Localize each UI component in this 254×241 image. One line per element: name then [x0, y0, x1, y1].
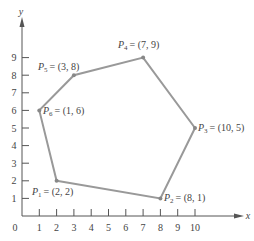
vertex-p1: [55, 179, 59, 183]
y-tick-label: 6: [12, 105, 17, 116]
polygon-diagram: 0 1 2 3 4 5 6 7 8 9 10 1 2 3 4 5 6 7 8 9…: [0, 0, 254, 241]
x-tick-label: 1: [37, 222, 42, 233]
y-axis-label: y: [18, 6, 24, 17]
y-tick-marks: [22, 58, 29, 199]
x-tick-label: 4: [89, 222, 94, 233]
x-tick-marks: [39, 209, 195, 216]
y-tick-label: 3: [12, 158, 17, 169]
vertex-p4: [141, 56, 145, 60]
x-tick-label: 2: [54, 222, 59, 233]
vertex-p3: [193, 126, 197, 130]
x-tick-label: 10: [190, 222, 200, 233]
point-label-p3: P3= (10, 5): [197, 122, 244, 135]
point-label-p5: P5= (3, 8): [37, 61, 79, 74]
point-label-p2: P2= (8, 1): [163, 192, 205, 205]
vertex-markers: [37, 56, 197, 201]
vertex-p6: [37, 108, 41, 112]
y-tick-label: 2: [12, 175, 17, 186]
x-axis-arrow-icon: [234, 214, 244, 219]
origin-label: 0: [13, 222, 18, 233]
y-tick-label: 9: [12, 52, 17, 63]
y-tick-label: 4: [12, 140, 17, 151]
point-label-p6: P6= (1, 6): [42, 105, 84, 118]
hexagon-polygon: [39, 58, 195, 199]
x-tick-label: 5: [106, 222, 111, 233]
point-label-p1: P1= (2, 2): [31, 186, 73, 199]
x-tick-label: 3: [71, 222, 76, 233]
vertex-p2: [158, 196, 162, 200]
x-tick-label: 7: [141, 222, 146, 233]
point-label-p4: P4= (7, 9): [117, 39, 159, 52]
y-axis-arrow-icon: [20, 17, 25, 27]
y-tick-label: 1: [12, 193, 17, 204]
y-tick-label: 7: [12, 87, 17, 98]
x-tick-label: 9: [175, 222, 180, 233]
x-tick-label: 8: [158, 222, 163, 233]
vertex-p5: [72, 73, 76, 77]
x-tick-label: 6: [123, 222, 128, 233]
y-tick-label: 5: [12, 123, 17, 134]
x-axis-label: x: [245, 210, 251, 221]
y-tick-label: 8: [12, 70, 17, 81]
